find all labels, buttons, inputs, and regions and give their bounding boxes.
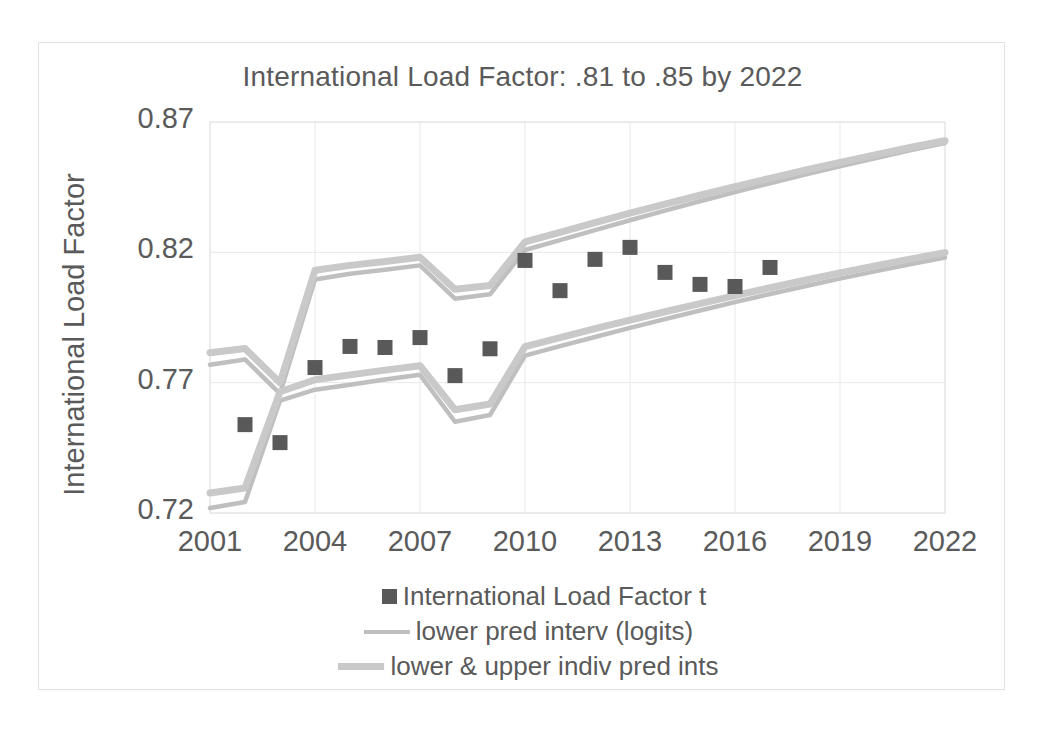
- x-tick-label-6: 2019: [785, 525, 895, 558]
- x-tick-label-3: 2010: [470, 525, 580, 558]
- legend-item-series-0[interactable]: International Load Factor t: [39, 579, 1006, 614]
- chart-card: International Load Factor: .81 to .85 by…: [38, 42, 1005, 690]
- data-point-marker: [483, 341, 498, 356]
- legend-item-series-1[interactable]: lower pred interv (logits): [39, 614, 1006, 649]
- legend-line-thin-icon: [352, 630, 410, 634]
- x-tick-label-0: 2001: [155, 525, 265, 558]
- y-tick-label-0: 0.87: [84, 102, 194, 135]
- data-point-marker: [343, 339, 358, 354]
- x-tick-label-5: 2016: [680, 525, 790, 558]
- data-point-marker: [763, 260, 778, 275]
- data-point-marker: [728, 279, 743, 294]
- legend-label: lower pred interv (logits): [416, 616, 693, 647]
- data-point-marker: [658, 265, 673, 280]
- data-point-marker: [553, 283, 568, 298]
- legend-line-thick-icon: [326, 663, 384, 670]
- gridlines: [210, 122, 945, 513]
- x-tick-label-2: 2007: [365, 525, 475, 558]
- y-tick-label-2: 0.77: [84, 363, 194, 396]
- series-lines: [210, 141, 945, 508]
- data-point-marker: [693, 277, 708, 292]
- x-tick-label-4: 2013: [575, 525, 685, 558]
- series-line: [210, 141, 945, 383]
- data-point-marker: [308, 360, 323, 375]
- data-point-marker: [623, 240, 638, 255]
- data-point-marker: [273, 435, 288, 450]
- y-tick-label-1: 0.82: [84, 232, 194, 265]
- data-point-marker: [378, 340, 393, 355]
- legend-label: International Load Factor t: [403, 581, 707, 612]
- chart-legend: International Load Factor t lower pred i…: [39, 579, 1006, 684]
- plot-border: [210, 122, 945, 513]
- data-point-marker: [588, 252, 603, 267]
- legend-item-series-2[interactable]: lower & upper indiv pred ints: [39, 649, 1006, 684]
- data-point-marker: [518, 253, 533, 268]
- x-tick-label-1: 2004: [260, 525, 370, 558]
- legend-label: lower & upper indiv pred ints: [390, 651, 718, 682]
- data-point-marker: [448, 368, 463, 383]
- x-tick-label-7: 2022: [890, 525, 1000, 558]
- data-point-marker: [413, 330, 428, 345]
- legend-marker-icon: [339, 589, 397, 604]
- y-tick-label-3: 0.72: [84, 493, 194, 526]
- data-point-marker: [238, 417, 253, 432]
